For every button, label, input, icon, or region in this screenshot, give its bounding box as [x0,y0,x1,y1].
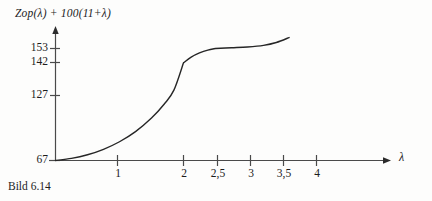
y-axis-ticks [49,49,60,161]
x-tick-label-3: 3 [238,167,264,179]
y-tick-label-142: 142 [20,55,48,67]
x-tick-label-2-5: 2,5 [205,167,231,179]
x-tick-label-2: 2 [171,167,197,179]
x-axis [56,157,392,163]
y-axis [52,26,58,161]
x-tick-label-3-5: 3,5 [271,167,297,179]
data-curve [56,38,290,161]
y-tick-label-127: 127 [20,88,48,100]
figure-container: Zop(λ) + 100(11+λ) [0,0,432,201]
figure-caption: Bild 6.14 [8,180,51,192]
x-axis-arrow-icon [383,157,391,163]
y-axis-arrow-icon [52,26,58,34]
x-axis-symbol-label: λ [399,150,404,165]
y-tick-label-153: 153 [20,41,48,53]
y-tick-label-67: 67 [20,153,48,165]
x-tick-label-4: 4 [304,167,330,179]
x-tick-label-1: 1 [105,167,131,179]
